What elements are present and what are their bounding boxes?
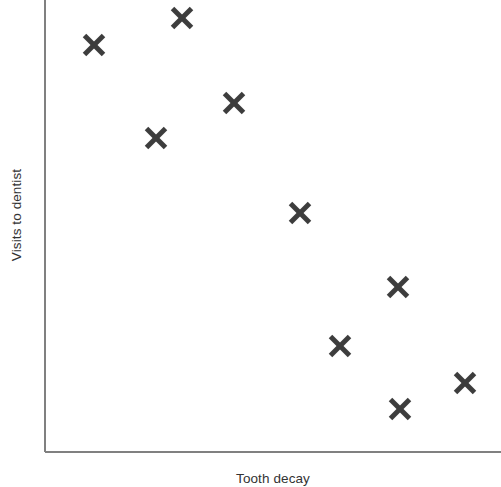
plot-canvas xyxy=(0,0,501,487)
data-point-marker xyxy=(173,9,192,28)
data-point-marker xyxy=(225,94,244,113)
data-point-marker xyxy=(456,374,475,393)
data-point-marker xyxy=(291,204,310,223)
x-axis-label: Tooth decay xyxy=(236,471,310,486)
data-point-marker xyxy=(389,278,408,297)
data-point-marker xyxy=(331,337,350,356)
y-axis-label: Visits to dentist xyxy=(9,169,24,261)
scatter-plot-figure: Visits to dentist Tooth decay xyxy=(0,0,501,487)
data-point-marker xyxy=(391,400,410,419)
data-point-marker xyxy=(147,129,166,148)
axis-lines xyxy=(45,0,501,452)
data-point-group xyxy=(85,9,475,419)
data-point-marker xyxy=(85,36,104,55)
